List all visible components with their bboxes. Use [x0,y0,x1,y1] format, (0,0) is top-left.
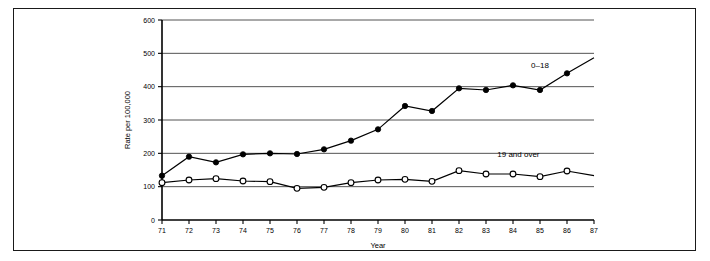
x-tick-label: 83 [482,227,490,234]
data-point [375,127,380,132]
x-tick-label: 86 [563,227,571,234]
data-point [456,86,461,91]
data-point [267,179,273,185]
data-point [375,177,381,183]
x-tick-label: 81 [428,227,436,234]
x-tick-label: 74 [239,227,247,234]
y-tick-label: 400 [143,83,155,90]
data-point [240,178,246,184]
data-point [321,147,326,152]
data-point [213,176,219,182]
data-point [429,178,435,184]
data-series-group [159,58,594,192]
data-point [510,83,515,88]
data-point [159,180,165,186]
data-point [483,87,488,92]
x-tick-label: 75 [266,227,274,234]
x-axis-title: Year [370,241,386,250]
data-point [186,154,191,159]
data-point [429,108,434,113]
x-axis: 7172737475767778798081828384858687 [158,220,598,234]
y-axis: 0100200300400500600 [143,17,162,224]
series-label: 0–18 [531,61,549,70]
data-point [483,171,489,177]
x-tick-label: 80 [401,227,409,234]
y-axis-title: Rate per 100,000 [123,91,132,149]
y-tick-label: 0 [151,217,155,224]
data-point [321,184,327,190]
y-tick-label: 600 [143,17,155,24]
series-labels-group: 0–1819 and over [497,61,549,159]
data-point [510,171,516,177]
data-point [240,152,245,157]
x-tick-label: 84 [509,227,517,234]
x-tick-label: 76 [293,227,301,234]
x-axis-ticks: 7172737475767778798081828384858687 [158,220,598,234]
gridlines [162,20,594,187]
x-tick-label: 78 [347,227,355,234]
data-point [564,71,569,76]
data-point [294,185,300,191]
data-point [402,176,408,182]
data-point [186,177,192,183]
x-tick-label: 87 [590,227,598,234]
x-tick-label: 79 [374,227,382,234]
data-point [159,173,164,178]
x-tick-label: 73 [212,227,220,234]
x-tick-label: 77 [320,227,328,234]
data-point [564,168,570,174]
data-point [213,160,218,165]
y-tick-label: 300 [143,117,155,124]
y-axis-ticks: 0100200300400500600 [143,17,162,224]
x-tick-label: 82 [455,227,463,234]
line-chart: 0100200300400500600 71727374757677787980… [0,0,710,261]
data-point [348,180,354,186]
data-point [537,87,542,92]
series-label: 19 and over [497,150,540,159]
x-tick-label: 72 [185,227,193,234]
chart-svg: 0100200300400500600 71727374757677787980… [0,0,710,261]
y-tick-label: 500 [143,50,155,57]
y-tick-label: 200 [143,150,155,157]
data-point [294,151,299,156]
data-point [537,174,543,180]
data-point [456,168,462,174]
data-point [267,151,272,156]
data-point [402,103,407,108]
data-point [348,138,353,143]
y-tick-label: 100 [143,183,155,190]
x-tick-label: 85 [536,227,544,234]
x-tick-label: 71 [158,227,166,234]
